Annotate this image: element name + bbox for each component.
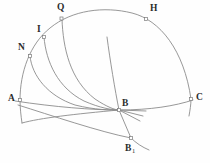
marker-B bbox=[118, 109, 121, 112]
figure-canvas bbox=[0, 0, 210, 163]
point-label-A: A bbox=[8, 94, 15, 104]
marker-C bbox=[190, 98, 193, 101]
curve-n-to-b bbox=[30, 56, 119, 110]
marker-I bbox=[43, 36, 46, 39]
point-label-B: B bbox=[122, 99, 129, 109]
point-label-C: C bbox=[196, 93, 203, 103]
line-left-to-b1 bbox=[22, 110, 119, 123]
curve-i-to-b bbox=[44, 37, 119, 110]
point-label-H: H bbox=[150, 4, 158, 14]
vertical-line-through-b bbox=[107, 37, 131, 138]
marker-H bbox=[145, 18, 148, 21]
point-label-B1: B1 bbox=[125, 144, 135, 154]
main-arc-path bbox=[20, 10, 191, 100]
point-label-I: I bbox=[37, 25, 41, 35]
marker-Q bbox=[60, 17, 63, 20]
point-label-B1-subscript: 1 bbox=[132, 147, 135, 154]
marker-B1 bbox=[130, 137, 133, 140]
point-label-B1-base: B bbox=[125, 143, 132, 153]
point-label-Q: Q bbox=[57, 3, 65, 13]
marker-N bbox=[29, 55, 32, 58]
ray-b-lower-right-2 bbox=[119, 110, 140, 121]
curve-q-to-b bbox=[62, 19, 119, 110]
point-label-N: N bbox=[18, 43, 25, 53]
arc-tail-below-a bbox=[20, 100, 22, 123]
point-markers bbox=[19, 17, 193, 140]
marker-A bbox=[19, 99, 22, 102]
geometry-figure: Q H I N A C B B1 bbox=[0, 0, 210, 163]
